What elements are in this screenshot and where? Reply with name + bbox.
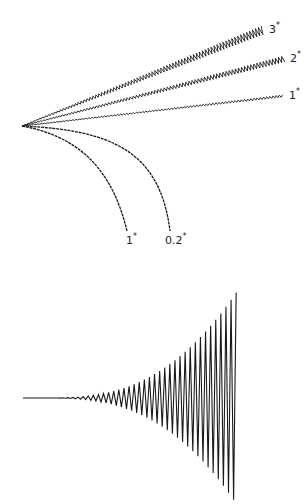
ray-label-3: 3* — [269, 21, 280, 36]
ray-label-1: 1* — [289, 87, 300, 102]
curve-1 — [22, 126, 127, 231]
curve-label-0.2: 0.2* — [165, 232, 187, 247]
ray-label-2: 2* — [290, 50, 301, 65]
ray-2 — [22, 57, 285, 126]
diagram-canvas: 3*2*1*1*0.2* — [0, 0, 304, 504]
bending-curves — [22, 126, 170, 231]
curve-labels: 3*2*1*1*0.2* — [126, 21, 301, 247]
ray-3 — [22, 26, 263, 126]
curve-label-1: 1* — [126, 232, 137, 247]
curve-0.2 — [22, 126, 170, 231]
oscillating-rays — [22, 26, 285, 126]
growing-oscillation-plot — [23, 293, 236, 500]
